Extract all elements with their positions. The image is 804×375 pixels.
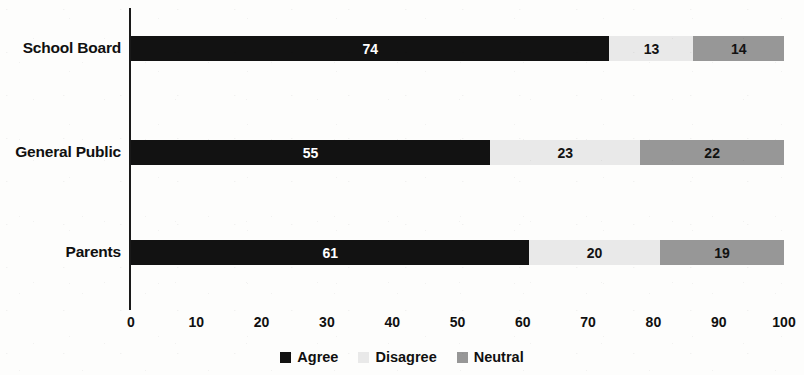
bar-value-label: 14 bbox=[731, 41, 747, 57]
chart-legend: AgreeDisagreeNeutral bbox=[0, 349, 804, 365]
x-axis-tick-0: 0 bbox=[127, 314, 135, 330]
bar-segment-disagree: 20 bbox=[529, 240, 660, 265]
legend-label: Agree bbox=[297, 349, 338, 365]
plot-area: 741314552322612019 bbox=[131, 8, 784, 310]
x-axis-tick-60: 60 bbox=[515, 314, 531, 330]
legend-swatch-neutral-icon bbox=[457, 352, 468, 363]
bar-row: 741314 bbox=[131, 36, 784, 61]
x-axis-tick-50: 50 bbox=[450, 314, 466, 330]
bar-segment-neutral: 19 bbox=[660, 240, 784, 265]
bar-value-label: 55 bbox=[303, 145, 319, 161]
category-label-general-public: General Public bbox=[0, 143, 121, 161]
bar-segment-agree: 74 bbox=[131, 36, 609, 61]
bar-segment-agree: 55 bbox=[131, 140, 490, 165]
x-axis-tick-40: 40 bbox=[384, 314, 400, 330]
chart-figure: School BoardGeneral PublicParents 741314… bbox=[0, 0, 804, 375]
legend-label: Neutral bbox=[474, 349, 524, 365]
bar-row: 612019 bbox=[131, 240, 784, 265]
bar-value-label: 19 bbox=[714, 245, 730, 261]
legend-swatch-agree-icon bbox=[280, 352, 291, 363]
x-axis-tick-90: 90 bbox=[711, 314, 727, 330]
legend-label: Disagree bbox=[375, 349, 436, 365]
bar-segment-neutral: 14 bbox=[693, 36, 784, 61]
bar-segment-disagree: 23 bbox=[490, 140, 640, 165]
x-axis-tick-100: 100 bbox=[772, 314, 795, 330]
legend-item-agree[interactable]: Agree bbox=[280, 349, 338, 365]
x-axis-tick-10: 10 bbox=[189, 314, 205, 330]
bar-value-label: 13 bbox=[644, 41, 660, 57]
bar-row: 552322 bbox=[131, 140, 784, 165]
x-axis-tick-20: 20 bbox=[254, 314, 270, 330]
bar-segment-disagree: 13 bbox=[609, 36, 693, 61]
category-label-school-board: School Board bbox=[0, 39, 121, 57]
bar-segment-neutral: 22 bbox=[640, 140, 784, 165]
x-axis-tick-80: 80 bbox=[646, 314, 662, 330]
x-axis-tick-labels: 0102030405060708090100 bbox=[131, 314, 784, 336]
x-axis-tick-70: 70 bbox=[580, 314, 596, 330]
bar-value-label: 22 bbox=[704, 145, 720, 161]
legend-item-neutral[interactable]: Neutral bbox=[457, 349, 524, 365]
legend-item-disagree[interactable]: Disagree bbox=[358, 349, 436, 365]
bar-value-label: 20 bbox=[587, 245, 603, 261]
bar-value-label: 61 bbox=[322, 245, 338, 261]
bar-segment-agree: 61 bbox=[131, 240, 529, 265]
x-axis-tick-30: 30 bbox=[319, 314, 335, 330]
category-label-parents: Parents bbox=[0, 243, 121, 261]
legend-swatch-disagree-icon bbox=[358, 352, 369, 363]
bar-value-label: 74 bbox=[362, 41, 378, 57]
bar-value-label: 23 bbox=[557, 145, 573, 161]
